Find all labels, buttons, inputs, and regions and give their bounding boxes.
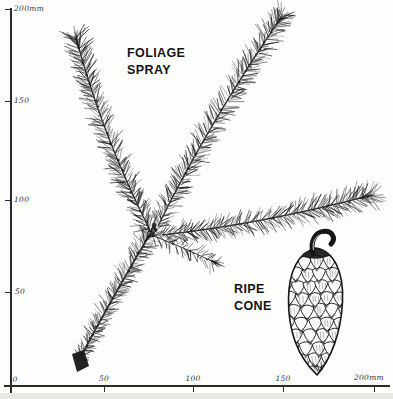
page-edge-shadow xyxy=(0,393,393,399)
upper-right-branch xyxy=(152,0,296,227)
x-tick-200 xyxy=(374,386,375,392)
y-tick-200 xyxy=(5,9,12,10)
foliage-spray-label-line1: FOLIAGE xyxy=(127,45,185,62)
ripe-cone-label-line1: RIPE xyxy=(234,281,272,298)
ripe-cone-illustration xyxy=(276,231,352,382)
y-tick-label-200: 200mm xyxy=(14,5,44,13)
x-tick-label-0: 0 xyxy=(12,376,17,384)
y-tick-label-50: 50 xyxy=(15,288,25,296)
x-axis-ruler xyxy=(4,385,390,387)
y-tick-100 xyxy=(5,200,12,201)
y-tick-label-100: 100 xyxy=(14,196,29,204)
y-tick-150 xyxy=(5,101,12,102)
y-tick-50 xyxy=(5,292,12,293)
x-tick-label-150: 150 xyxy=(275,375,290,383)
x-tick-label-100: 100 xyxy=(185,375,200,383)
ripe-cone-label: RIPE CONE xyxy=(234,281,272,315)
foliage-spray-label-line2: SPRAY xyxy=(127,62,185,79)
x-tick-150 xyxy=(283,386,284,392)
y-tick-label-150: 150 xyxy=(14,97,29,105)
x-tick-50 xyxy=(104,386,105,392)
ripe-cone-label-line2: CONE xyxy=(234,298,272,315)
foliage-spray-label: FOLIAGE SPRAY xyxy=(127,45,185,79)
botanical-plate: FOLIAGE SPRAY RIPE CONE 200mm 150 100 50… xyxy=(0,0,393,399)
x-tick-100 xyxy=(193,386,194,392)
stem-branch xyxy=(75,221,164,361)
botanical-illustration xyxy=(0,0,393,399)
x-tick-label-50: 50 xyxy=(99,375,109,383)
x-tick-label-200: 200mm xyxy=(354,374,384,382)
right-branch xyxy=(160,180,386,246)
